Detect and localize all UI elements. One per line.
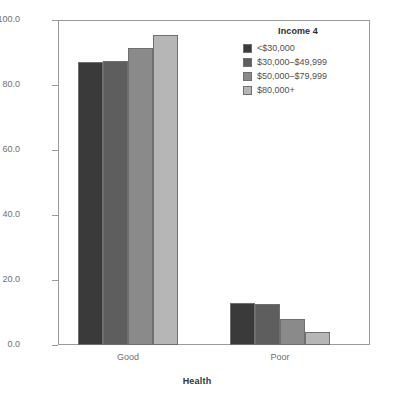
legend: Income 4 <$30,000$30,000–$49,999$50,000–… [243,26,363,98]
legend-item: $30,000–$49,999 [243,56,363,69]
legend-swatch-icon [243,86,252,95]
legend-items: <$30,000$30,000–$49,999$50,000–$79,999$8… [243,42,363,97]
legend-title: Income 4 [243,26,353,36]
bar [103,61,128,345]
y-tick-label: 80.0 [0,80,20,89]
legend-label: $50,000–$79,999 [257,72,327,81]
bar [230,303,255,345]
x-axis-title: Health [0,376,394,386]
bar [305,332,330,345]
legend-item: <$30,000 [243,42,363,55]
legend-item: $80,000+ [243,84,363,97]
x-tick-label: Poor [240,352,320,362]
y-tick-mark [52,345,58,346]
bar [128,48,153,345]
bar [255,304,280,345]
legend-label: $30,000–$49,999 [257,58,327,67]
x-tick-label: Good [88,352,168,362]
bar-chart-figure: Percentage 0.020.040.060.080.0100.0 Good… [0,0,394,407]
legend-item: $50,000–$79,999 [243,70,363,83]
y-tick-label: 40.0 [0,210,20,219]
bar [78,62,103,345]
cropped-chart-title [0,0,394,6]
legend-swatch-icon [243,72,252,81]
bar [280,319,305,345]
y-tick-label: 0.0 [0,340,20,349]
y-tick-label: 20.0 [0,275,20,284]
legend-swatch-icon [243,58,252,67]
y-tick-label: 60.0 [0,145,20,154]
y-tick-label: 100.0 [0,15,20,24]
legend-label: <$30,000 [257,44,295,53]
bar [153,35,178,345]
legend-label: $80,000+ [257,86,295,95]
legend-swatch-icon [243,44,252,53]
